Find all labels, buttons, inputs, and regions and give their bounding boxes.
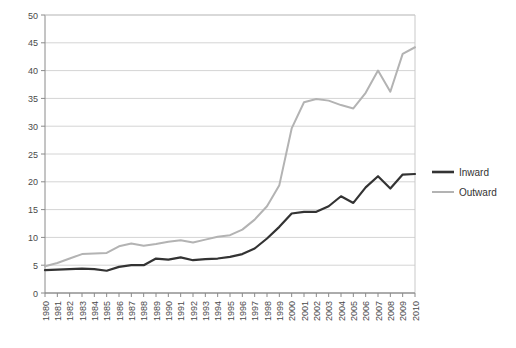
x-tick-label: 2000 [287,301,297,321]
legend-label-outward: Outward [459,187,497,198]
x-tick-label: 2002 [312,301,322,321]
x-tick-label: 1984 [90,301,100,321]
gridlines [45,15,415,293]
y-tick-label: 40 [28,66,38,76]
x-tick-label: 1995 [226,301,236,321]
chart-legend: InwardOutward [432,167,497,198]
x-tick-label: 1986 [115,301,125,321]
x-tick-label: 1988 [139,301,149,321]
y-tick-label: 25 [28,150,38,160]
x-tick-label: 1996 [238,301,248,321]
y-tick-label: 20 [28,177,38,187]
x-tick-label: 1980 [41,301,51,321]
y-tick-label: 30 [28,122,38,132]
series-line-outward [45,47,415,266]
x-tick-label: 1994 [213,301,223,321]
x-tick-label: 1993 [201,301,211,321]
x-tick-label: 1981 [53,301,63,321]
x-tick-label: 1990 [164,301,174,321]
x-tick-label: 1983 [78,301,88,321]
series-line-inward [45,174,415,271]
x-tick-label: 2006 [361,301,371,321]
legend-label-inward: Inward [459,167,489,178]
x-tick-label: 1991 [176,301,186,321]
x-tick-label: 1985 [102,301,112,321]
y-tick-label: 0 [33,289,38,299]
x-tick-label: 2007 [374,301,384,321]
y-tick-label: 15 [28,205,38,215]
chart-container: 05101520253035404550 1980198119821983198… [0,0,516,348]
x-tick-label: 1989 [152,301,162,321]
y-tick-label: 45 [28,38,38,48]
y-tick-label: 35 [28,94,38,104]
y-tick-label: 50 [28,11,38,21]
x-tick-label: 2008 [386,301,396,321]
x-tick-label: 1987 [127,301,137,321]
y-tick-label: 10 [28,233,38,243]
x-tick-label: 1999 [275,301,285,321]
x-tick-label: 2005 [349,301,359,321]
x-tick-label: 2009 [398,301,408,321]
x-tick-label: 2004 [337,301,347,321]
x-tick-label: 1992 [189,301,199,321]
line-chart: 05101520253035404550 1980198119821983198… [0,0,516,348]
x-tick-label: 1998 [263,301,273,321]
x-axis: 1980198119821983198419851986198719881989… [41,293,421,321]
x-tick-label: 1982 [65,301,75,321]
x-tick-label: 2001 [300,301,310,321]
y-tick-label: 5 [33,261,38,271]
x-tick-label: 2010 [411,301,421,321]
x-tick-label: 1997 [250,301,260,321]
x-tick-label: 2003 [324,301,334,321]
